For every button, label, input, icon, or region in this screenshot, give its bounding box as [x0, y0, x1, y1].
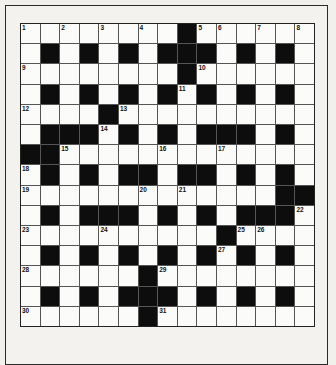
grid-cell[interactable]: [21, 287, 40, 306]
grid-cell[interactable]: 12: [21, 105, 40, 124]
grid-cell[interactable]: [158, 165, 177, 184]
grid-cell[interactable]: [21, 44, 40, 63]
grid-cell[interactable]: [139, 64, 158, 83]
grid-cell[interactable]: [119, 186, 138, 205]
grid-cell[interactable]: [295, 64, 314, 83]
grid-cell[interactable]: 29: [158, 266, 177, 285]
grid-cell[interactable]: 25: [237, 226, 256, 245]
grid-cell[interactable]: [178, 287, 197, 306]
grid-cell[interactable]: 9: [21, 64, 40, 83]
grid-cell[interactable]: [139, 246, 158, 265]
grid-cell[interactable]: [178, 145, 197, 164]
grid-cell[interactable]: [99, 246, 118, 265]
grid-cell[interactable]: [295, 287, 314, 306]
grid-cell[interactable]: [256, 186, 275, 205]
grid-cell[interactable]: [237, 24, 256, 43]
grid-cell[interactable]: [139, 145, 158, 164]
grid-cell[interactable]: [119, 145, 138, 164]
grid-cell[interactable]: [295, 246, 314, 265]
grid-cell[interactable]: [158, 64, 177, 83]
grid-cell[interactable]: [217, 206, 236, 225]
grid-cell[interactable]: [237, 266, 256, 285]
grid-cell[interactable]: 5: [197, 24, 216, 43]
grid-cell[interactable]: 28: [21, 266, 40, 285]
grid-cell[interactable]: [158, 24, 177, 43]
grid-cell[interactable]: [139, 226, 158, 245]
grid-cell[interactable]: [139, 125, 158, 144]
grid-cell[interactable]: [139, 206, 158, 225]
grid-cell[interactable]: [178, 226, 197, 245]
grid-cell[interactable]: [217, 64, 236, 83]
grid-cell[interactable]: [21, 206, 40, 225]
grid-cell[interactable]: 31: [158, 307, 177, 326]
grid-cell[interactable]: [80, 145, 99, 164]
grid-cell[interactable]: [60, 105, 79, 124]
grid-cell[interactable]: [217, 105, 236, 124]
grid-cell[interactable]: [60, 64, 79, 83]
grid-cell[interactable]: [237, 186, 256, 205]
grid-cell[interactable]: [21, 246, 40, 265]
grid-cell[interactable]: 20: [139, 186, 158, 205]
grid-cell[interactable]: [99, 44, 118, 63]
grid-cell[interactable]: [276, 266, 295, 285]
grid-cell[interactable]: [256, 287, 275, 306]
grid-cell[interactable]: [256, 246, 275, 265]
grid-cell[interactable]: 8: [295, 24, 314, 43]
grid-cell[interactable]: [237, 307, 256, 326]
grid-cell[interactable]: [197, 145, 216, 164]
grid-cell[interactable]: [99, 307, 118, 326]
grid-cell[interactable]: [178, 246, 197, 265]
grid-cell[interactable]: [158, 186, 177, 205]
grid-cell[interactable]: [256, 44, 275, 63]
grid-cell[interactable]: [99, 145, 118, 164]
grid-cell[interactable]: [178, 266, 197, 285]
grid-cell[interactable]: [60, 287, 79, 306]
grid-cell[interactable]: 30: [21, 307, 40, 326]
grid-cell[interactable]: [237, 105, 256, 124]
grid-cell[interactable]: [41, 226, 60, 245]
grid-cell[interactable]: [256, 266, 275, 285]
grid-cell[interactable]: [99, 266, 118, 285]
grid-cell[interactable]: [139, 85, 158, 104]
grid-cell[interactable]: 24: [99, 226, 118, 245]
grid-cell[interactable]: [99, 165, 118, 184]
grid-cell[interactable]: [158, 226, 177, 245]
grid-cell[interactable]: [276, 226, 295, 245]
grid-cell[interactable]: [80, 226, 99, 245]
grid-cell[interactable]: [60, 186, 79, 205]
grid-cell[interactable]: [256, 85, 275, 104]
grid-cell[interactable]: [276, 24, 295, 43]
grid-cell[interactable]: [60, 307, 79, 326]
grid-cell[interactable]: [41, 266, 60, 285]
grid-cell[interactable]: [158, 105, 177, 124]
grid-cell[interactable]: [256, 307, 275, 326]
grid-cell[interactable]: [217, 186, 236, 205]
grid-cell[interactable]: [276, 307, 295, 326]
grid-cell[interactable]: [256, 145, 275, 164]
grid-cell[interactable]: [295, 44, 314, 63]
grid-cell[interactable]: 14: [99, 125, 118, 144]
grid-cell[interactable]: [41, 186, 60, 205]
grid-cell[interactable]: 4: [139, 24, 158, 43]
grid-cell[interactable]: [276, 105, 295, 124]
grid-cell[interactable]: [295, 165, 314, 184]
grid-cell[interactable]: [41, 24, 60, 43]
grid-cell[interactable]: [217, 85, 236, 104]
grid-cell[interactable]: 10: [197, 64, 216, 83]
grid-cell[interactable]: [197, 266, 216, 285]
grid-cell[interactable]: [217, 307, 236, 326]
grid-cell[interactable]: [256, 105, 275, 124]
grid-cell[interactable]: [60, 266, 79, 285]
grid-cell[interactable]: 13: [119, 105, 138, 124]
grid-cell[interactable]: [276, 64, 295, 83]
grid-cell[interactable]: 26: [256, 226, 275, 245]
grid-cell[interactable]: [217, 266, 236, 285]
grid-cell[interactable]: 19: [21, 186, 40, 205]
grid-cell[interactable]: [119, 24, 138, 43]
grid-cell[interactable]: [99, 64, 118, 83]
grid-cell[interactable]: [119, 226, 138, 245]
grid-cell[interactable]: 3: [99, 24, 118, 43]
grid-cell[interactable]: [60, 165, 79, 184]
grid-cell[interactable]: [295, 145, 314, 164]
grid-cell[interactable]: [197, 307, 216, 326]
